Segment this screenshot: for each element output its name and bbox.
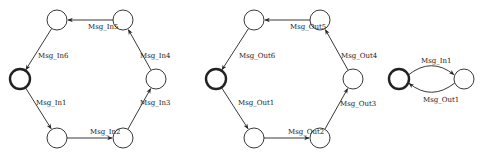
state-node — [47, 128, 67, 148]
transition-arrow — [25, 87, 51, 128]
nodes-layer — [10, 10, 474, 148]
transition-arrow — [409, 83, 455, 92]
initial-state-node — [206, 69, 226, 89]
state-node — [47, 10, 67, 30]
transition-arrow — [128, 89, 151, 130]
state-node — [454, 69, 474, 89]
transition-arrow — [408, 66, 454, 75]
initial-state-node — [389, 69, 409, 89]
transition-label: Msg_In5 — [88, 23, 118, 31]
transition-arrow — [128, 30, 151, 71]
transition-label: Msg_In1 — [36, 99, 66, 107]
state-node — [244, 10, 264, 30]
transition-arrow — [221, 87, 248, 128]
initial-state-node — [10, 69, 30, 89]
transition-arrow — [325, 30, 348, 71]
transition-arrow — [26, 28, 52, 69]
transition-label: Msg_In4 — [140, 52, 171, 60]
state-node — [244, 128, 264, 148]
state-node — [343, 69, 363, 89]
state-node — [146, 69, 166, 89]
transition-arrow — [222, 28, 249, 69]
transition-label: Msg_In2 — [90, 128, 120, 136]
transition-label: Msg_In6 — [38, 52, 69, 60]
transition-label: Msg_Out2 — [288, 128, 324, 136]
transition-label: Msg_Out6 — [239, 52, 276, 60]
transition-label: Msg_Out1 — [238, 99, 274, 107]
transition-label: Msg_Out4 — [341, 52, 378, 60]
transition-label: Msg_Out1 — [423, 96, 459, 104]
transition-arrow — [325, 89, 348, 130]
transition-label: Msg_In1 — [421, 57, 451, 65]
transition-label: Msg_In3 — [140, 99, 170, 107]
transition-label: Msg_Out5 — [290, 23, 326, 31]
transition-label: Msg_Out3 — [340, 100, 376, 108]
state-diagram-canvas: Msg_In1Msg_In2Msg_In3Msg_In4Msg_In5Msg_I… — [0, 0, 490, 159]
